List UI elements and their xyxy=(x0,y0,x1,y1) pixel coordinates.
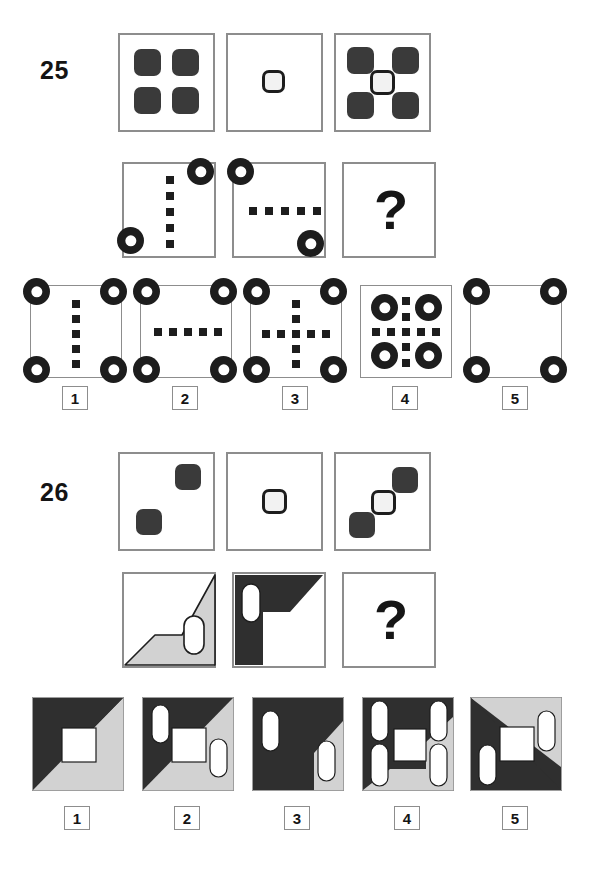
pip xyxy=(322,330,330,338)
pip xyxy=(402,297,410,305)
q26-option-label-5[interactable]: 5 xyxy=(502,806,528,830)
ring xyxy=(210,278,237,305)
pip xyxy=(154,328,162,336)
pip xyxy=(292,315,300,323)
q26-option-1-figure[interactable] xyxy=(32,697,124,791)
q25-option-2-figure[interactable] xyxy=(140,285,232,378)
pip xyxy=(169,328,177,336)
q26-row1-cell3 xyxy=(334,452,431,551)
pip xyxy=(402,359,410,367)
dark-rounded-square xyxy=(347,47,374,74)
dark-rounded-square xyxy=(392,92,419,119)
pip xyxy=(72,330,80,338)
pip xyxy=(249,207,257,215)
q25-row2-cell1 xyxy=(122,162,216,258)
ring xyxy=(117,227,144,254)
ring xyxy=(210,356,237,383)
q25-option-1-figure[interactable] xyxy=(30,285,122,378)
pip xyxy=(72,345,80,353)
dark-rounded-square xyxy=(349,512,375,538)
q25-option-4-figure[interactable] xyxy=(360,285,452,378)
pip xyxy=(72,315,80,323)
pip xyxy=(262,330,270,338)
dark-rounded-square xyxy=(392,47,419,74)
pip xyxy=(184,328,192,336)
pip xyxy=(166,224,174,232)
ring xyxy=(243,278,270,305)
open-rounded-square xyxy=(262,70,285,93)
pip xyxy=(432,328,440,336)
q26-row2-answer-cell: ? xyxy=(342,572,436,668)
q26-option-label-4[interactable]: 4 xyxy=(394,806,420,830)
pip xyxy=(166,192,174,200)
dark-rounded-square xyxy=(175,464,201,490)
pip xyxy=(277,330,285,338)
pip xyxy=(72,300,80,308)
q25-row1-cell2 xyxy=(226,33,323,132)
q26-option-5-figure[interactable] xyxy=(470,697,562,791)
open-rounded-square xyxy=(371,490,396,515)
q25-option-3-figure[interactable] xyxy=(250,285,342,378)
ring xyxy=(463,356,490,383)
q26-row2-cell2 xyxy=(232,572,326,668)
q26-option-3-figure[interactable] xyxy=(252,697,344,791)
q26-option-2-figure[interactable] xyxy=(142,697,234,791)
pip xyxy=(387,328,395,336)
open-rounded-square xyxy=(370,70,395,95)
q26-option-label-3[interactable]: 3 xyxy=(284,806,310,830)
question-number-26: 26 xyxy=(40,478,69,507)
question-number-25: 25 xyxy=(40,56,69,85)
ring xyxy=(415,342,442,369)
ring xyxy=(297,230,324,257)
q26-option-4-figure[interactable] xyxy=(362,697,454,791)
q25-option-label-1[interactable]: 1 xyxy=(62,386,88,410)
q25-row2-answer-cell: ? xyxy=(342,162,436,258)
ring xyxy=(100,278,127,305)
dark-rounded-square xyxy=(347,92,374,119)
pip xyxy=(166,208,174,216)
ring xyxy=(463,278,490,305)
pip xyxy=(417,328,425,336)
pip xyxy=(281,207,289,215)
dark-rounded-square xyxy=(172,87,199,114)
dark-rounded-square xyxy=(172,49,199,76)
pip xyxy=(166,240,174,248)
ring xyxy=(23,278,50,305)
pip xyxy=(307,330,315,338)
pip xyxy=(297,207,305,215)
pip xyxy=(292,360,300,368)
q26-option-label-1[interactable]: 1 xyxy=(64,806,90,830)
ring xyxy=(133,278,160,305)
pip xyxy=(292,300,300,308)
q25-row2-cell2 xyxy=(232,162,326,258)
pip xyxy=(214,328,222,336)
pip xyxy=(292,345,300,353)
ring xyxy=(371,342,398,369)
q25-option-label-5[interactable]: 5 xyxy=(502,386,528,410)
pip xyxy=(72,360,80,368)
dark-rounded-square xyxy=(134,87,161,114)
q25-option-label-4[interactable]: 4 xyxy=(392,386,418,410)
pip xyxy=(199,328,207,336)
ring xyxy=(320,278,347,305)
ring xyxy=(320,356,347,383)
q25-option-5-figure[interactable] xyxy=(470,285,562,378)
pip xyxy=(166,176,174,184)
q25-option-label-3[interactable]: 3 xyxy=(282,386,308,410)
q25-row1-cell1 xyxy=(118,33,215,132)
pip xyxy=(292,330,300,338)
q26-row1-cell1 xyxy=(118,452,215,551)
ring xyxy=(100,356,127,383)
pip xyxy=(402,343,410,351)
ring xyxy=(540,356,567,383)
pip xyxy=(402,328,410,336)
q25-option-label-2[interactable]: 2 xyxy=(172,386,198,410)
ring xyxy=(23,356,50,383)
ring xyxy=(243,356,270,383)
test-sheet: 25 ? xyxy=(0,0,599,880)
dark-rounded-square xyxy=(392,467,418,493)
q26-option-label-2[interactable]: 2 xyxy=(174,806,200,830)
dark-rounded-square xyxy=(134,49,161,76)
question-mark: ? xyxy=(374,182,408,238)
q26-row1-cell2 xyxy=(226,452,323,551)
